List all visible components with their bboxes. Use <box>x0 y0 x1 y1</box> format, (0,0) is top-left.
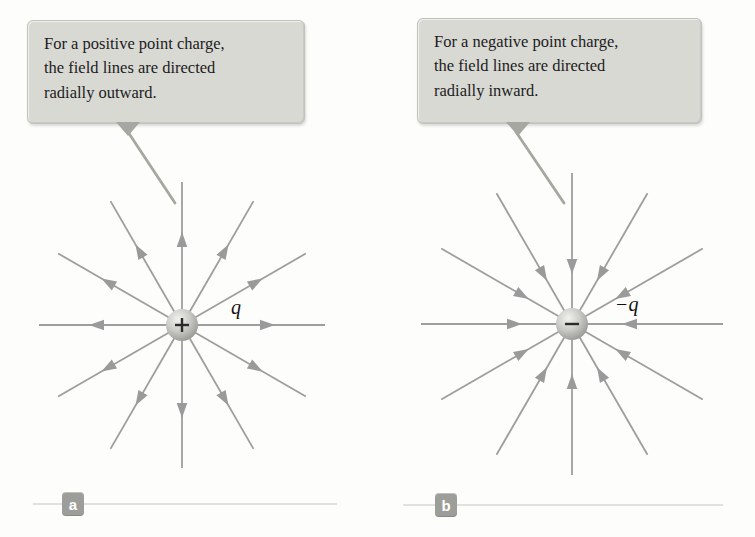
callout-leader-line <box>516 132 564 203</box>
field-line <box>58 325 182 397</box>
callout-negative-line-2: the field lines are directed <box>434 54 687 78</box>
field-arrowhead <box>567 374 578 389</box>
field-line <box>441 324 572 400</box>
field-arrowhead <box>597 367 609 383</box>
field-arrowhead <box>101 359 117 371</box>
field-panel-b <box>403 132 723 505</box>
field-arrowhead <box>216 244 228 260</box>
field-line <box>182 254 306 326</box>
field-line <box>497 324 573 455</box>
callout-positive-line-3: radially outward. <box>44 81 290 105</box>
field-line <box>182 201 254 325</box>
field-arrowhead <box>136 244 148 260</box>
field-line <box>572 324 648 455</box>
field-arrowhead <box>260 320 275 331</box>
callout-positive-line-1: For a positive point charge, <box>44 32 290 56</box>
field-arrowhead <box>247 279 263 291</box>
textbook-figure: For a positive point charge, the field l… <box>0 0 755 537</box>
charge-label-negative-q: −q <box>615 293 639 316</box>
field-arrowhead <box>615 349 631 361</box>
field-line <box>111 201 183 325</box>
field-arrowhead <box>101 279 117 291</box>
callout-positive-line-2: the field lines are directed <box>44 56 290 80</box>
field-arrowhead <box>567 259 578 274</box>
callout-positive-charge: For a positive point charge, the field l… <box>27 20 305 124</box>
field-lines-group <box>33 132 723 505</box>
field-line <box>58 254 182 326</box>
field-arrowhead <box>597 265 609 281</box>
field-arrowhead <box>89 320 104 331</box>
callout-positive-pointer <box>116 122 140 136</box>
subfigure-badge-b: b <box>435 493 457 517</box>
field-arrowhead <box>513 287 529 299</box>
field-arrowhead <box>535 367 547 383</box>
field-arrowhead <box>177 403 188 418</box>
callout-leader-line <box>128 132 175 203</box>
field-arrowhead <box>177 232 188 247</box>
field-arrowhead <box>507 319 522 330</box>
field-line <box>497 193 573 324</box>
charge-label-q: q <box>231 296 241 319</box>
field-arrowhead <box>513 349 529 361</box>
callout-negative-charge: For a negative point charge, the field l… <box>417 18 702 124</box>
field-line <box>182 325 254 449</box>
callout-negative-pointer <box>506 122 530 136</box>
field-arrowhead <box>136 390 148 406</box>
field-arrowhead <box>535 265 547 281</box>
subfigure-badge-a: a <box>62 492 84 516</box>
field-panel-a <box>33 132 337 504</box>
field-line <box>572 324 703 400</box>
field-arrowhead <box>216 390 228 406</box>
field-arrowhead <box>622 319 637 330</box>
callout-negative-line-1: For a negative point charge, <box>434 30 687 54</box>
field-arrowhead <box>247 359 263 371</box>
field-line <box>441 249 572 325</box>
callout-negative-line-3: radially inward. <box>434 79 687 103</box>
field-line <box>182 325 306 397</box>
field-line <box>111 325 183 449</box>
